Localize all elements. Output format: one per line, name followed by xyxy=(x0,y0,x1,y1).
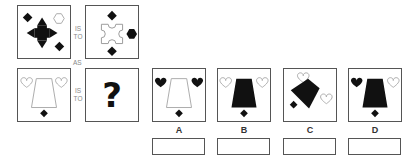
heart-outline-icon xyxy=(21,78,33,88)
trapezoid-filled-icon xyxy=(362,79,387,108)
question-mark: ? xyxy=(86,69,138,121)
option-d-figure xyxy=(349,69,401,121)
diamond-icon xyxy=(290,101,298,109)
diamond-icon xyxy=(40,109,48,117)
is-label: IS xyxy=(71,25,85,33)
heart-outline-icon xyxy=(257,78,269,88)
puzzle-square-composition xyxy=(86,6,138,58)
diamond-icon xyxy=(55,42,65,52)
option-d-label: D xyxy=(349,125,401,135)
premise-panel-1 xyxy=(17,5,71,59)
heart-outline-icon xyxy=(388,78,400,88)
to-label: TO xyxy=(71,33,85,41)
option-c-answer-box[interactable] xyxy=(283,138,336,155)
option-d-panel[interactable] xyxy=(348,68,402,122)
cross-arrow-composition xyxy=(18,6,70,58)
trapezoid-outline-icon xyxy=(166,79,191,108)
option-b-panel[interactable] xyxy=(217,68,271,122)
diamond-icon xyxy=(107,46,117,56)
option-b-figure xyxy=(218,69,270,121)
trapezoid-filled-icon xyxy=(231,79,256,108)
trapezoid-hearts-composition xyxy=(18,69,70,121)
is-label: IS xyxy=(71,87,85,95)
option-c-label: C xyxy=(284,125,336,135)
option-a-panel[interactable] xyxy=(152,68,206,122)
is-to-connector-2: IS TO xyxy=(71,87,85,103)
diamond-icon xyxy=(23,13,33,23)
option-b-label: B xyxy=(218,125,270,135)
cross-arrow-icon xyxy=(27,18,58,49)
puzzle-square-icon xyxy=(101,24,122,43)
option-a-figure xyxy=(153,69,205,121)
option-c-panel[interactable] xyxy=(283,68,337,122)
unknown-panel: ? xyxy=(85,68,139,122)
heart-outline-icon xyxy=(56,78,68,88)
heart-outline-icon xyxy=(321,94,333,104)
option-c-figure xyxy=(284,69,336,121)
as-connector: AS xyxy=(73,59,82,66)
diamond-icon xyxy=(371,109,379,117)
option-a-label: A xyxy=(153,125,205,135)
premise-panel-3 xyxy=(17,68,71,122)
diamond-icon xyxy=(240,109,248,117)
diamond-icon xyxy=(107,11,117,21)
hexagon-icon xyxy=(54,14,65,24)
hexagon-icon xyxy=(126,29,137,39)
is-to-connector-1: IS TO xyxy=(71,25,85,41)
heart-filled-icon xyxy=(155,78,167,88)
premise-panel-2 xyxy=(85,5,139,59)
heart-filled-icon xyxy=(192,78,204,88)
diamond-icon xyxy=(175,109,183,117)
option-b-answer-box[interactable] xyxy=(217,138,270,155)
option-a-answer-box[interactable] xyxy=(152,138,205,155)
to-label: TO xyxy=(71,95,85,103)
option-d-answer-box[interactable] xyxy=(348,138,401,155)
trapezoid-outline-icon xyxy=(31,79,56,108)
heart-outline-icon xyxy=(220,78,232,88)
heart-filled-icon xyxy=(351,78,363,88)
